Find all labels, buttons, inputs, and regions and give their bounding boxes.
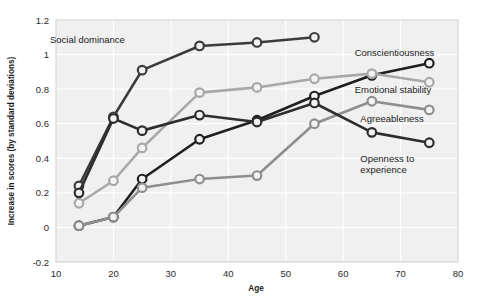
data-point [195, 175, 204, 184]
chart-container: -0.200.20.40.60.811.2 1020304050607080 S… [0, 0, 486, 308]
series-label-5: experience [360, 164, 406, 175]
data-point [109, 213, 118, 222]
x-tick-label: 20 [108, 268, 119, 279]
data-point [195, 42, 204, 51]
y-tick-label: 0.4 [36, 153, 49, 164]
x-axis-title: Age [248, 284, 264, 293]
y-tick-label: 1.2 [36, 15, 49, 26]
data-point [138, 66, 147, 75]
data-point [310, 74, 319, 83]
data-point [368, 69, 377, 78]
x-tick-label: 60 [338, 268, 349, 279]
data-point [138, 175, 147, 184]
x-tick-label: 80 [453, 268, 464, 279]
x-tick-label: 70 [395, 268, 406, 279]
data-point [253, 118, 262, 127]
data-point [109, 114, 118, 123]
data-point [195, 88, 204, 97]
series-label-5: Openness to [360, 153, 414, 164]
data-point [310, 99, 319, 108]
data-point [138, 183, 147, 192]
data-point [253, 83, 262, 92]
data-point [109, 176, 118, 185]
data-point [138, 126, 147, 135]
y-tick-label: 1 [44, 49, 49, 60]
line-chart: -0.200.20.40.60.811.2 1020304050607080 S… [0, 0, 486, 308]
data-point [75, 199, 84, 208]
data-point [75, 221, 84, 230]
data-point [425, 106, 434, 115]
series-label-3: Emotional stability [355, 84, 432, 95]
data-point [368, 97, 377, 106]
data-point [310, 33, 319, 42]
x-tick-label: 50 [280, 268, 291, 279]
data-point [195, 111, 204, 120]
data-point [253, 171, 262, 180]
y-tick-label: 0.6 [36, 118, 49, 129]
data-point [195, 135, 204, 144]
data-point [310, 119, 319, 128]
x-tick-label: 30 [166, 268, 177, 279]
series-label-2: Conscientiousness [355, 47, 435, 58]
y-axis-title: Increase in scores (by standard deviatio… [7, 57, 16, 226]
x-tick-label: 10 [51, 268, 62, 279]
data-point [425, 59, 434, 68]
data-point [368, 128, 377, 137]
series-label-4: Agreeableness [360, 113, 424, 124]
y-tick-label: -0.2 [33, 257, 49, 268]
data-point [425, 138, 434, 147]
y-tick-label: 0 [44, 222, 49, 233]
x-tick-label: 40 [223, 268, 234, 279]
data-point [138, 144, 147, 153]
y-tick-label: 0.2 [36, 187, 49, 198]
data-point [253, 38, 262, 47]
data-point [75, 189, 84, 198]
series-label-1: Social dominance [50, 34, 125, 45]
y-tick-label: 0.8 [36, 84, 49, 95]
